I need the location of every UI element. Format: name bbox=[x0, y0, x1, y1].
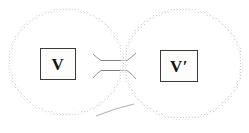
figure-canvas: V V′ bbox=[0, 0, 249, 133]
label-box-v: V bbox=[40, 48, 76, 80]
label-text-v: V bbox=[52, 56, 65, 73]
label-box-v-prime: V′ bbox=[160, 50, 198, 82]
label-text-v-prime: V′ bbox=[170, 58, 188, 75]
illustration-svg bbox=[0, 0, 249, 133]
